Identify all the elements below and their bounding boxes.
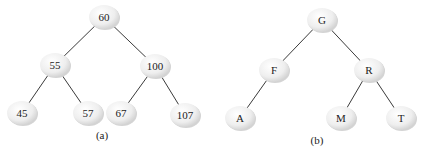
- tree-node-45: 45: [7, 101, 38, 126]
- tree-caption-1: (b): [311, 134, 324, 147]
- binary-trees-diagram: 6055100455767107GFRAMT (a)(b): [0, 0, 423, 152]
- tree-node-R: R: [354, 58, 385, 83]
- tree-caption-0: (a): [96, 129, 109, 142]
- tree-node-A: A: [225, 106, 256, 131]
- tree-node-67: 67: [106, 101, 137, 126]
- tree-node-60: 60: [89, 5, 120, 30]
- node-label: T: [398, 112, 405, 124]
- tree-node-F: F: [259, 58, 290, 83]
- tree-node-G: G: [307, 8, 338, 33]
- node-label: F: [271, 64, 277, 76]
- nodes-layer: 6055100455767107GFRAMT: [7, 5, 417, 131]
- node-label: R: [365, 64, 373, 76]
- edges-layer: [22, 17, 401, 118]
- tree-node-57: 57: [73, 101, 104, 126]
- node-label: 45: [17, 107, 29, 119]
- tree-node-100: 100: [140, 54, 171, 79]
- node-label: M: [336, 112, 346, 124]
- tree-node-55: 55: [40, 53, 71, 78]
- node-label: A: [236, 112, 244, 124]
- tree-node-T: T: [386, 106, 417, 131]
- node-label: 67: [116, 107, 128, 119]
- tree-node-M: M: [326, 106, 357, 131]
- node-label: 60: [99, 11, 111, 23]
- captions-layer: (a)(b): [96, 129, 324, 147]
- node-label: G: [318, 14, 326, 26]
- node-label: 55: [50, 59, 62, 71]
- node-label: 57: [83, 107, 95, 119]
- node-label: 100: [147, 60, 164, 72]
- node-label: 107: [177, 109, 194, 121]
- tree-node-107: 107: [170, 103, 201, 128]
